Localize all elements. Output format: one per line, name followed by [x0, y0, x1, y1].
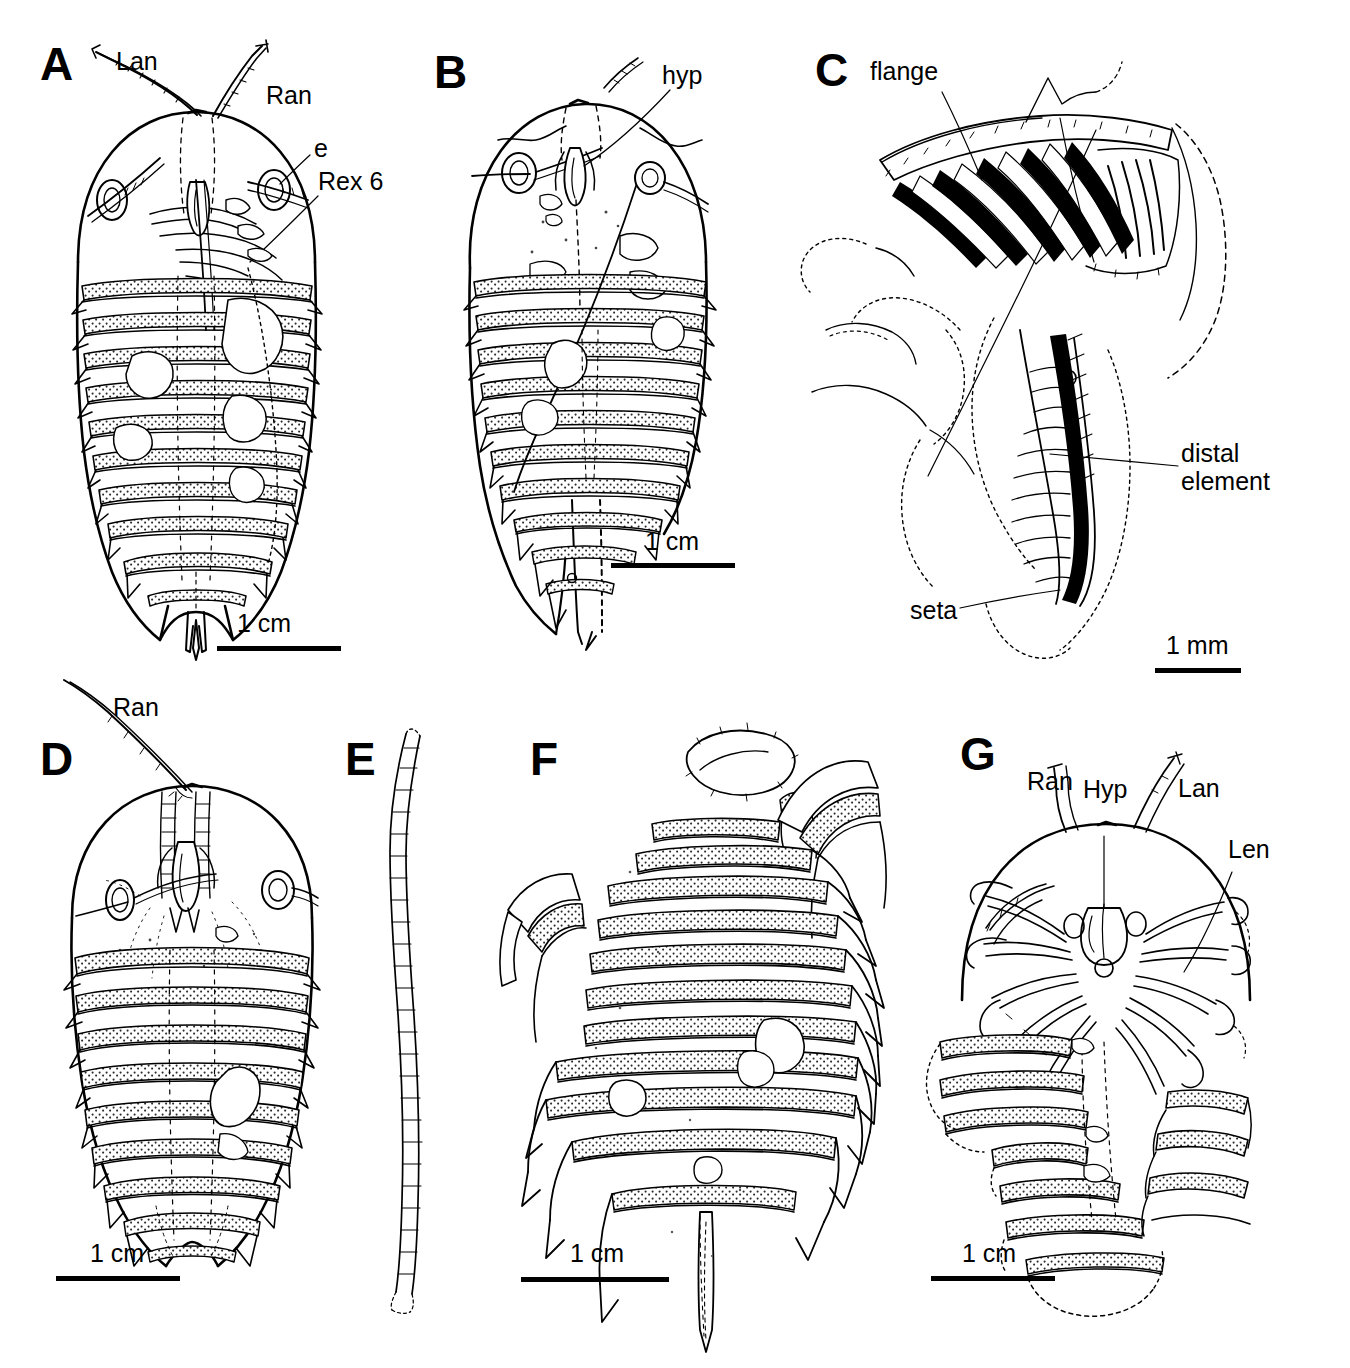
panel-e-drawing — [390, 729, 422, 1313]
scale-bar-g — [931, 1276, 1055, 1281]
scale-label-b: 1 cm — [645, 528, 699, 554]
label-a-rex6: Rex 6 — [318, 168, 383, 194]
scale-bar-d — [56, 1276, 180, 1281]
figure-linework — [0, 0, 1350, 1368]
label-c-distal: distal — [1181, 440, 1239, 466]
label-c-element: element — [1181, 468, 1270, 494]
panel-c-drawing — [801, 62, 1226, 658]
panel-letter-e: E — [345, 735, 376, 783]
label-a-ran: Ran — [266, 82, 312, 108]
scale-bar-c — [1155, 668, 1241, 673]
scale-label-c: 1 mm — [1166, 632, 1229, 658]
panel-letter-g: G — [960, 730, 996, 778]
scale-label-f: 1 cm — [570, 1240, 624, 1266]
label-g-len: Len — [1228, 836, 1270, 862]
scale-bar-b — [611, 563, 735, 568]
panel-letter-a: A — [40, 40, 73, 88]
panel-letter-d: D — [40, 735, 73, 783]
label-d-ran: Ran — [113, 694, 159, 720]
scale-bar-f — [521, 1277, 669, 1282]
label-c-flange: flange — [870, 58, 938, 84]
panel-g-drawing — [927, 752, 1252, 1316]
scale-label-d: 1 cm — [90, 1240, 144, 1266]
scale-bar-a — [217, 646, 341, 651]
panel-b-drawing — [464, 58, 716, 650]
panel-a-drawing — [72, 40, 322, 660]
panel-letter-f: F — [530, 735, 558, 783]
label-a-e: e — [314, 135, 328, 161]
scale-label-a: 1 cm — [237, 610, 291, 636]
label-c-seta: seta — [910, 597, 957, 623]
label-g-ran: Ran — [1027, 768, 1073, 794]
label-b-hyp: hyp — [662, 62, 702, 88]
panel-f-drawing — [500, 723, 886, 1352]
figure-plate: A Lan Ran e Rex 6 1 cm B hyp 1 cm C flan… — [0, 0, 1350, 1368]
panel-d-drawing — [64, 680, 320, 1266]
label-g-hyp: Hyp — [1083, 776, 1127, 802]
panel-letter-b: B — [434, 48, 467, 96]
label-g-lan: Lan — [1178, 775, 1220, 801]
scale-label-g: 1 cm — [962, 1240, 1016, 1266]
panel-letter-c: C — [815, 46, 848, 94]
label-a-lan: Lan — [116, 48, 158, 74]
